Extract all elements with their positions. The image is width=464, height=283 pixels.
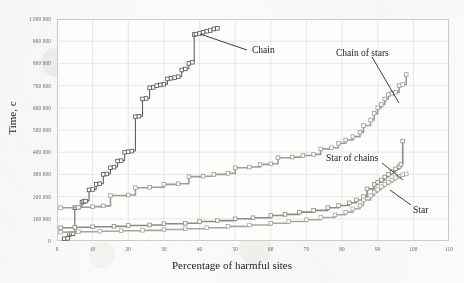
annotation-leader-lines <box>0 0 464 283</box>
y-tick-label: 200 000 <box>0 194 51 200</box>
x-tick-label: 90 <box>364 246 392 252</box>
x-tick-label: 80 <box>328 246 356 252</box>
x-tick-label: 50 <box>221 246 249 252</box>
y-tick-label: 900 000 <box>0 38 51 44</box>
x-tick-label: 0 <box>43 246 71 252</box>
series-annotation-star: Star <box>413 205 428 215</box>
series-annotation-star-of-chains: Star of chains <box>326 153 378 163</box>
y-tick-label: 0 <box>0 238 51 244</box>
x-tick-label: 110 <box>435 246 463 252</box>
chart-figure: 0100 000200 000300 000400 000500 000600 … <box>0 0 464 283</box>
y-axis-title: Time, c <box>6 70 18 166</box>
x-tick-label: 70 <box>292 246 320 252</box>
x-tick-label: 40 <box>186 246 214 252</box>
x-tick-label: 20 <box>114 246 142 252</box>
series-annotation-chain: Chain <box>252 45 275 55</box>
y-tick-label: 1 000 000 <box>0 16 51 22</box>
y-tick-label: 100 000 <box>0 216 51 222</box>
x-tick-label: 10 <box>79 246 107 252</box>
y-tick-label: 300 000 <box>0 171 51 177</box>
series-annotation-chain-of-stars: Chain of stars <box>336 48 389 58</box>
x-tick-label: 60 <box>257 246 285 252</box>
x-tick-label: 30 <box>150 246 178 252</box>
y-tick-label: 800 000 <box>0 60 51 66</box>
x-tick-label: 100 <box>399 246 427 252</box>
x-axis-title: Percentage of harmful sites <box>0 259 464 271</box>
